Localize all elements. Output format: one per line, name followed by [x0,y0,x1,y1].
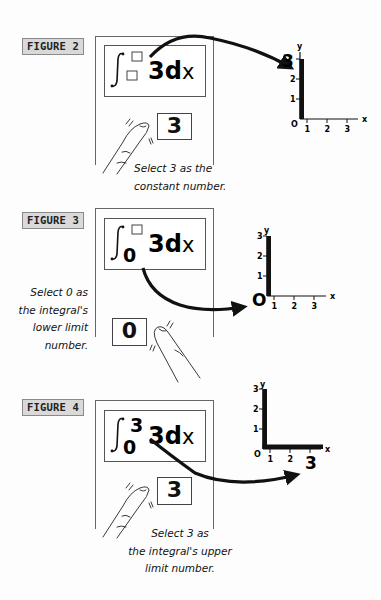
x-tick-label: 2 [325,125,331,134]
area-horizontal-edge [263,445,324,450]
lower-limit-value: 0 [123,244,136,266]
integral-sign-icon [112,54,123,87]
origin-label: O [254,450,261,459]
diagram-canvas: 3dx03dx303dx yxO123123yxO123123yxO123123 [0,0,381,600]
origin-label: O [291,120,298,129]
y-tick-label: 1 [253,425,259,434]
x-axis-label: x [330,292,336,301]
figure-3-integral-expression: 03dx [111,225,195,266]
figure-3-pointing-hand-icon [150,321,200,382]
y-tick-label: 3 [257,232,263,241]
integrand: 3dx [148,422,194,450]
figure-4-integral-expression: 303dx [111,414,195,458]
x-tick-label: 3 [312,302,318,311]
figure-2-pointing-hand-icon [103,119,153,174]
figure-4-graph: yxO123123 [253,380,331,473]
integral-sign-dot [122,418,125,421]
figure-2-graph: yxO123123 [282,42,368,134]
x-tick-label: 3 [345,125,351,134]
y-axis-label: y [264,226,270,235]
integral-sign-icon [112,419,123,452]
integral-sign-icon [112,227,123,260]
x-tick-label: 1 [268,455,274,464]
y-tick-label: 2 [253,405,259,414]
figure-3-arrow [143,268,243,310]
graphs: yxO123123yxO123123yxO123123 [252,42,368,473]
y-tick-label: 1 [257,272,263,281]
figure-2-integral-expression: 3dx [111,52,195,87]
upper-limit-value: 3 [130,414,143,436]
origin-label: O [252,290,266,310]
x-tick-label: 1 [272,302,278,311]
y-tick-label: 1 [290,95,296,104]
x-tick-label: 2 [292,302,298,311]
y-tick-label: 3 [282,51,294,71]
y-tick-label: 2 [257,252,263,261]
integral-sign-dot [111,258,114,261]
x-tick-label: 1 [305,125,311,134]
y-axis-label: y [297,42,303,51]
y-tick-label: 2 [290,75,296,84]
y-tick-label: 3 [253,385,259,394]
x-axis-label: x [325,445,331,454]
x-tick-label: 2 [288,455,294,464]
upper-limit-slot[interactable] [132,225,142,234]
integrand: 3dx [148,230,194,258]
y-axis-label: y [260,380,266,389]
x-tick-label: 3 [305,453,317,473]
x-axis-label: x [362,115,368,124]
lower-limit-slot[interactable] [127,71,137,80]
figure-4-pointing-hand-icon [103,483,153,538]
integral-sign-dot [111,85,114,88]
upper-limit-slot[interactable] [132,52,142,61]
integral-expressions: 3dx03dx303dx [111,52,195,458]
integral-sign-dot [122,226,125,229]
integral-sign-dot [111,450,114,453]
integral-sign-dot [122,53,125,56]
integrand: 3dx [148,57,194,85]
lower-limit-value: 0 [123,436,136,458]
figure-3-graph: yxO123123 [252,226,336,311]
